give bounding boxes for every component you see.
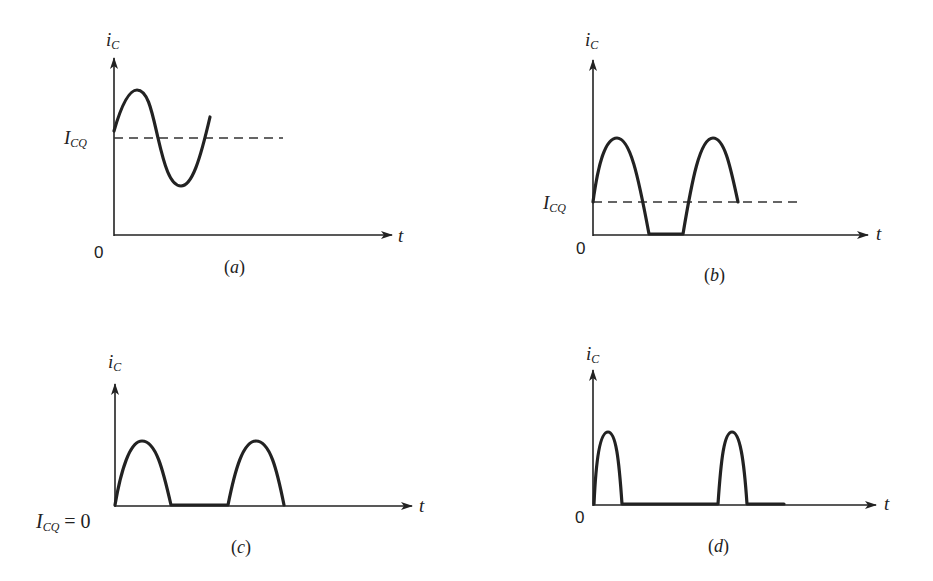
panel-c (115, 384, 412, 507)
x-axis-label: t (884, 494, 889, 513)
origin-label: 0 (575, 509, 584, 526)
y-axis-label: iC (585, 30, 598, 51)
panel-a (114, 58, 392, 236)
waveform-curve (115, 441, 284, 505)
icq-zero-label: ICQ = 0 (36, 511, 91, 533)
panel-caption: (c) (231, 538, 251, 556)
y-axis-label: iC (106, 30, 119, 51)
panel-d (593, 370, 876, 506)
figure-canvas (0, 0, 933, 581)
panel-caption: (d) (708, 537, 729, 555)
y-axis-label: iC (108, 352, 121, 373)
x-axis-label: t (876, 224, 881, 243)
x-axis-label: t (419, 496, 424, 515)
waveform-curve (594, 432, 784, 504)
waveform-curve (593, 138, 738, 234)
panel-caption: (b) (704, 266, 725, 284)
origin-label: 0 (94, 244, 103, 261)
panel-caption: (a) (224, 258, 245, 276)
panel-b (593, 60, 868, 236)
origin-label: 0 (576, 240, 585, 257)
icq-label: ICQ (64, 128, 87, 149)
icq-label: ICQ (543, 193, 566, 214)
y-axis-label: iC (586, 344, 599, 365)
x-axis-label: t (398, 226, 403, 245)
